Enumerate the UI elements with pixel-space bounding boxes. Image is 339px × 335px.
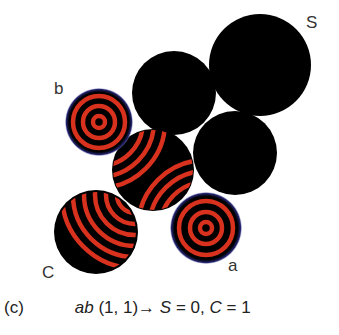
- caption-carry-var: C: [209, 298, 221, 317]
- half-adder-diagram: [0, 0, 339, 335]
- cell-a: [170, 192, 242, 264]
- cell-b: [65, 88, 133, 156]
- caption-sum-eq: = 0,: [176, 298, 205, 317]
- caption-inputs-value: (1, 1): [98, 298, 138, 317]
- label-sum: S: [306, 14, 317, 31]
- cell-s: [209, 14, 311, 116]
- caption-carry-eq: = 1: [226, 298, 250, 317]
- caption-arrow: →: [138, 298, 155, 317]
- label-carry: C: [42, 264, 54, 281]
- label-input-a: a: [228, 257, 237, 274]
- caption-inputs-var: ab: [75, 298, 94, 317]
- panel-label: (c): [4, 298, 70, 318]
- cell-right-middle: [193, 111, 277, 195]
- figure-caption: (c) ab (1, 1)→ S = 0, C = 1: [4, 298, 251, 318]
- label-input-b: b: [54, 80, 63, 97]
- caption-sum-var: S: [160, 298, 171, 317]
- cell-top-middle: [132, 51, 216, 135]
